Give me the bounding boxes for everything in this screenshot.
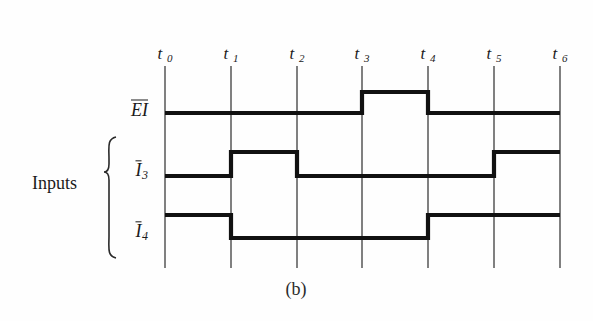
tick-subscript-t6: 6: [562, 52, 568, 64]
timing-diagram-figure: t 0 t 1 t 2 t 3 t 4 t 5 t 6 EI I3 I4 Inp…: [0, 0, 593, 321]
tick-label-t0: t 0: [158, 44, 173, 64]
tick-label-t3: t 3: [355, 44, 370, 64]
tick-label-t4-base: t: [421, 44, 426, 63]
tick-subscript-t5: 5: [496, 52, 502, 64]
tick-label-t2: t 2: [290, 44, 305, 64]
inputs-group-label: Inputs: [32, 173, 77, 194]
tick-label-t1-base: t: [224, 44, 229, 63]
tick-subscript-t2: 2: [299, 52, 305, 64]
signal-label-ei: EI: [131, 100, 148, 121]
brace-path: [104, 137, 116, 258]
tick-subscript-t1: 1: [233, 52, 239, 64]
signal-label-i3: I3: [136, 160, 149, 183]
tick-label-t5-base: t: [487, 44, 492, 63]
inputs-group-brace: [104, 137, 116, 258]
overbar-ei: EI: [131, 100, 148, 120]
subscript-i3: 3: [142, 169, 148, 183]
tick-label-t6: t 6: [553, 44, 568, 64]
overbar-i3: I: [136, 160, 142, 180]
signal-label-i4: I4: [136, 221, 149, 244]
overbar-i4: I: [136, 221, 142, 241]
tick-label-t1: t 1: [224, 44, 239, 64]
tick-subscript-t0: 0: [167, 52, 173, 64]
tick-label-t4: t 4: [421, 44, 436, 64]
tick-subscript-t4: 4: [430, 52, 436, 64]
tick-subscript-t3: 3: [364, 52, 370, 64]
tick-label-t5: t 5: [487, 44, 502, 64]
subscript-i4: 4: [142, 230, 148, 244]
figure-caption: (b): [286, 279, 307, 300]
waveform-ei: [165, 92, 560, 113]
tick-label-t2-base: t: [290, 44, 295, 63]
tick-label-t6-base: t: [553, 44, 558, 63]
tick-label-t3-base: t: [355, 44, 360, 63]
tick-label-t0-base: t: [158, 44, 163, 63]
